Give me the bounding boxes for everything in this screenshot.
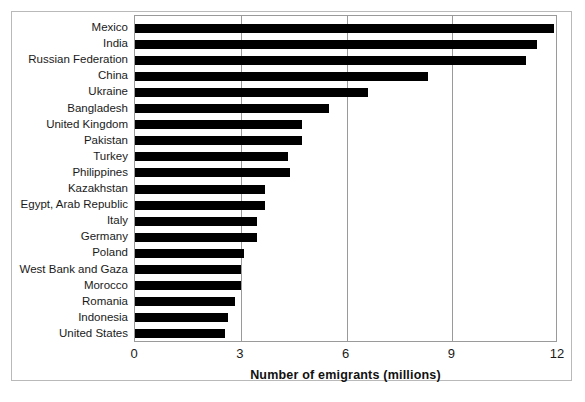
category-label: Bangladesh <box>0 100 128 116</box>
category-axis-labels: MexicoIndiaRussian FederationChinaUkrain… <box>0 15 585 342</box>
category-label: Kazakhstan <box>0 180 128 196</box>
category-label: China <box>0 67 128 83</box>
category-label: Germany <box>0 228 128 244</box>
category-label: Russian Federation <box>0 51 128 67</box>
emigrants-bar-chart-figure: MexicoIndiaRussian FederationChinaUkrain… <box>0 0 585 402</box>
category-label: India <box>0 35 128 51</box>
category-label: Egypt, Arab Republic <box>0 196 128 212</box>
x-tick-label: 12 <box>537 346 577 362</box>
category-label: Pakistan <box>0 132 128 148</box>
category-label: United Kingdom <box>0 116 128 132</box>
category-label: Mexico <box>0 19 128 35</box>
category-label: Turkey <box>0 148 128 164</box>
category-label: Romania <box>0 293 128 309</box>
category-label: Philippines <box>0 164 128 180</box>
category-label: Indonesia <box>0 309 128 325</box>
category-label: United States <box>0 325 128 341</box>
x-axis-title: Number of emigrants (millions) <box>134 368 557 382</box>
x-tick-label: 3 <box>220 346 260 362</box>
category-label: Morocco <box>0 277 128 293</box>
x-tick-label: 9 <box>431 346 471 362</box>
category-label: Ukraine <box>0 83 128 99</box>
x-tick-label: 0 <box>114 346 154 362</box>
category-label: West Bank and Gaza <box>0 261 128 277</box>
category-label: Italy <box>0 212 128 228</box>
category-label: Poland <box>0 244 128 260</box>
x-tick-label: 6 <box>326 346 366 362</box>
